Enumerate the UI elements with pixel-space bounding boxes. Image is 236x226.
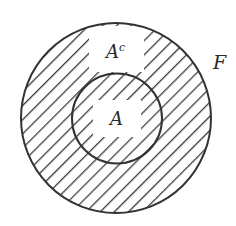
set-diagram: Ac A F bbox=[0, 0, 236, 226]
inner-set-label: A bbox=[108, 108, 123, 129]
outer-set-label: F bbox=[212, 51, 227, 73]
